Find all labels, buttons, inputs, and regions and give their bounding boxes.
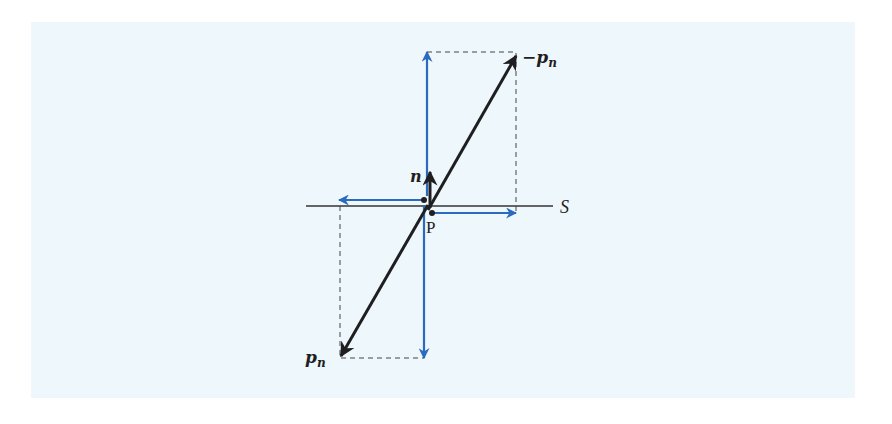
label-point-P: P <box>426 218 435 237</box>
point-dot-upper <box>421 197 427 203</box>
point-P-dot <box>429 210 435 216</box>
pn-vector <box>341 205 428 356</box>
diagram: −pn pn n P S <box>0 0 892 424</box>
label-pn: pn <box>305 347 326 370</box>
label-surface-S: S <box>560 197 569 217</box>
neg-pn-vector <box>428 56 516 210</box>
label-neg-pn: −pn <box>522 47 557 70</box>
label-normal-n: n <box>410 167 422 186</box>
